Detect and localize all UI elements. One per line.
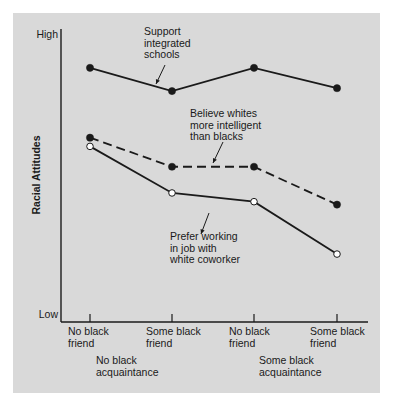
series-line-0 xyxy=(90,68,337,91)
series-line-1 xyxy=(90,138,337,205)
data-point-1-1 xyxy=(168,163,175,170)
data-point-2-2 xyxy=(251,198,258,205)
x-tick-label-2: No blackfriend xyxy=(229,325,271,349)
x-tick-labels: No blackfriendSome blackfriendNo blackfr… xyxy=(68,325,366,378)
data-point-0-2 xyxy=(250,64,257,71)
data-point-0-0 xyxy=(86,64,93,71)
annotation-2: Prefer workingin job withwhite coworker xyxy=(169,230,241,265)
data-point-1-3 xyxy=(333,201,340,208)
data-point-0-1 xyxy=(168,88,175,95)
data-point-2-0 xyxy=(87,143,94,150)
annotation-0: Supportintegratedschools xyxy=(144,25,191,60)
data-point-2-1 xyxy=(169,190,176,197)
x-tick-label-0: No blackfriend xyxy=(68,325,110,349)
y-tick-high: High xyxy=(36,28,58,40)
y-tick-low: Low xyxy=(39,308,59,320)
x-group-label-0: No blackacquaintance xyxy=(96,354,159,378)
data-point-0-3 xyxy=(333,85,340,92)
x-tick-label-3: Some blackfriend xyxy=(310,325,366,349)
data-point-1-0 xyxy=(86,134,93,141)
data-point-2-3 xyxy=(334,251,341,258)
x-ticks xyxy=(90,314,337,322)
x-group-label-1: Some blackacquaintance xyxy=(259,354,322,378)
series-annotations: SupportintegratedschoolsBelieve whitesmo… xyxy=(144,25,261,265)
annotation-1: Believe whitesmore intelligentthan black… xyxy=(190,107,261,142)
x-tick-label-1: Some blackfriend xyxy=(146,325,202,349)
line-chart: High Low Racial Attitudes No blackfriend… xyxy=(0,0,394,406)
data-point-1-2 xyxy=(250,163,257,170)
y-axis-label: Racial Attitudes xyxy=(30,135,42,214)
